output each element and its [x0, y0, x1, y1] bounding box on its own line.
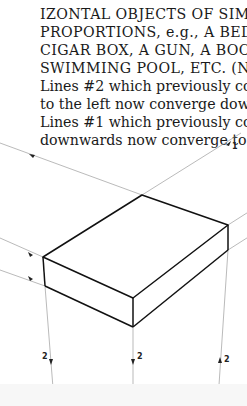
- construction-lines-left: [0, 143, 142, 286]
- arrow-icon: [218, 357, 222, 363]
- label-line-1: 1: [232, 142, 238, 151]
- arrow-icon: [131, 359, 135, 365]
- arrow-icon: [28, 252, 33, 257]
- label-line-2-left: 2: [42, 352, 48, 361]
- arrow-icon: [29, 154, 35, 158]
- document-page: IZONTAL OBJECTS OF SIMILAR PROPORTIONS, …: [0, 0, 247, 406]
- perspective-box-figure: 1 2 2 2: [0, 0, 247, 406]
- page-bottom-edge: [0, 384, 247, 406]
- label-line-2-right: 2: [224, 355, 230, 364]
- box-edges: [43, 195, 228, 327]
- arrow-icon: [49, 359, 53, 365]
- arrowheads: [28, 141, 231, 365]
- label-line-2-middle: 2: [137, 352, 143, 361]
